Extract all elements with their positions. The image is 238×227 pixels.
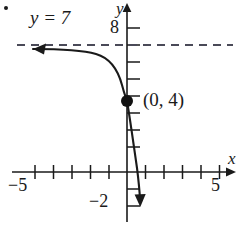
exponential-curve: [33, 44, 146, 208]
graph-figure: y = 7 y x 8 −2 −5 5 (0, 4): [0, 0, 238, 227]
y-axis-label: y: [116, 0, 124, 17]
asymptote-equation-label: y = 7: [30, 8, 70, 27]
point-marker-0-4: [121, 95, 133, 107]
y-tick-label-negative-2: −2: [89, 192, 108, 210]
x-tick-label-negative-5: −5: [8, 176, 27, 194]
x-tick-label-5: 5: [211, 176, 220, 194]
point-coordinate-label: (0, 4): [143, 90, 184, 109]
x-axis-label: x: [228, 150, 236, 167]
coordinate-plane: [0, 0, 238, 227]
y-tick-label-8: 8: [110, 18, 119, 36]
x-axis: [12, 168, 236, 177]
